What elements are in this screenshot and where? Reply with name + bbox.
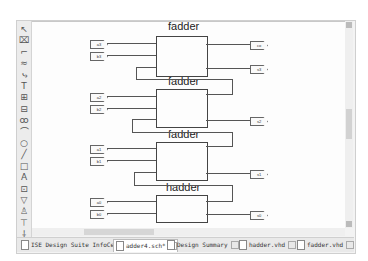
tab-hadder-vhd[interactable]: hadder.vhd — [237, 239, 296, 251]
output-port-co[interactable]: co — [250, 41, 268, 50]
wire-tool-icon[interactable]: ⌧ — [18, 34, 30, 46]
carry-wire — [232, 185, 233, 201]
arc-tool-icon[interactable]: ⌒ — [18, 126, 30, 138]
output-port-s3[interactable]: s3 — [250, 65, 268, 74]
select-tool-icon[interactable]: ↖ — [18, 23, 30, 35]
carry-wire — [132, 119, 156, 120]
horizontal-scrollbar[interactable] — [32, 228, 345, 236]
wire — [206, 214, 250, 215]
carry-wire — [232, 132, 233, 146]
schematic-toolbar: ↖⌧⌐≈⤷T⊞⊟ꝏ⌒○╱□A⊡▽♙⊤⸸ — [17, 21, 32, 239]
scroll-up-arrow-icon[interactable] — [346, 22, 352, 28]
carry-wire — [206, 94, 233, 95]
input-port-b0[interactable]: b0 — [90, 210, 108, 219]
line-tool-icon[interactable]: ╱ — [18, 148, 30, 160]
block-label: hadder — [166, 181, 200, 193]
wire — [107, 160, 156, 161]
bus-tool-icon[interactable]: ≈ — [18, 57, 30, 69]
carry-wire — [132, 119, 133, 132]
bus-tap-tool-icon[interactable]: ⤷ — [18, 69, 30, 81]
infocenter-icon — [21, 240, 29, 250]
vertical-scrollbar[interactable] — [345, 21, 353, 228]
block-label: fadder — [168, 20, 199, 32]
block-label: fadder — [168, 75, 199, 87]
close-icon[interactable] — [346, 241, 354, 249]
io-marker-tool-icon[interactable]: ⊟ — [18, 103, 30, 115]
schematic-canvas[interactable]: fadder fadder fadder hadder a3 b3 a2 b2 … — [32, 21, 345, 229]
wire — [107, 108, 156, 109]
wire — [107, 201, 156, 202]
wire — [107, 148, 156, 149]
carry-wire — [132, 132, 232, 133]
tab-fadder-vhd[interactable]: fadder.vhd — [295, 239, 354, 251]
horizontal-scroll-thumb[interactable] — [84, 229, 154, 235]
attribute-tool-icon[interactable]: ⊡ — [18, 183, 30, 195]
carry-wire — [136, 79, 232, 80]
output-port-s1[interactable]: s1 — [250, 170, 268, 179]
hadder-block[interactable] — [156, 195, 208, 223]
circle-tool-icon[interactable]: ○ — [18, 137, 30, 149]
carry-wire — [134, 185, 232, 186]
input-port-b1[interactable]: b1 — [90, 157, 108, 166]
input-port-a3[interactable]: a3 — [90, 40, 108, 49]
carry-wire — [232, 79, 233, 94]
tab-design-summary[interactable]: Design Summary — [165, 239, 239, 251]
carry-wire — [134, 172, 135, 185]
add-symbol-tool-icon[interactable]: ꝏ — [18, 114, 30, 126]
wire — [206, 44, 250, 45]
push-tool-icon[interactable]: ⊤ — [18, 217, 30, 229]
pin-tool-icon[interactable]: ▽ — [18, 194, 30, 206]
schematic-file-icon — [116, 241, 124, 251]
input-port-a0[interactable]: a0 — [90, 198, 108, 207]
carry-wire — [134, 172, 156, 173]
carry-wire — [206, 201, 233, 202]
net-name-tool-icon[interactable]: ⌐ — [18, 46, 30, 58]
carry-wire — [136, 67, 137, 79]
vhdl-file-icon — [297, 240, 305, 250]
output-port-s0[interactable]: s0 — [250, 211, 268, 220]
wire — [206, 173, 250, 174]
scroll-down-arrow-icon[interactable] — [346, 221, 352, 227]
block-label: fadder — [168, 128, 199, 140]
carry-wire — [136, 67, 156, 68]
hierarchy-tool-icon[interactable]: ♙ — [18, 205, 30, 217]
wire — [107, 43, 156, 44]
vhdl-file-icon — [239, 240, 247, 250]
input-port-a1[interactable]: a1 — [90, 145, 108, 154]
fadder-block-2[interactable] — [156, 89, 208, 128]
input-port-b3[interactable]: b3 — [90, 52, 108, 61]
fadder-block-1[interactable] — [156, 36, 208, 77]
rectangle-tool-icon[interactable]: □ — [18, 160, 30, 172]
output-port-s2[interactable]: s2 — [250, 117, 268, 126]
vertical-scroll-thumb[interactable] — [346, 109, 352, 139]
label-tool-icon[interactable]: A — [18, 171, 30, 183]
carry-wire — [206, 146, 233, 147]
input-port-b2[interactable]: b2 — [90, 105, 108, 114]
wire — [206, 120, 250, 121]
wire — [107, 213, 156, 214]
symbol-tool-icon[interactable]: ⊞ — [18, 91, 30, 103]
fadder-block-3[interactable] — [156, 142, 208, 181]
wire — [206, 68, 250, 69]
document-tab-bar: ISE Design Suite InfoCenter adder4.sch* … — [17, 237, 354, 252]
summary-icon — [167, 240, 175, 250]
text-tool-icon[interactable]: T — [18, 80, 30, 92]
wire — [107, 96, 156, 97]
input-port-a2[interactable]: a2 — [90, 93, 108, 102]
wire — [107, 55, 156, 56]
